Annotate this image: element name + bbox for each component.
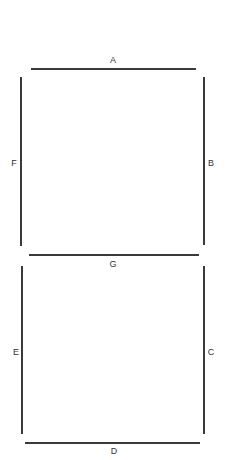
segment-e-label: E [10,347,22,357]
segment-a-label: A [107,55,119,65]
segment-f-label: F [8,158,20,168]
segment-g-label: G [107,259,119,269]
segment-c-label: C [205,347,217,357]
segment-b-label: B [205,158,217,168]
segment-g [29,254,199,256]
segment-d-label: D [108,446,120,456]
segment-a [31,68,196,70]
segment-d [25,442,200,444]
segment-f [20,77,22,246]
